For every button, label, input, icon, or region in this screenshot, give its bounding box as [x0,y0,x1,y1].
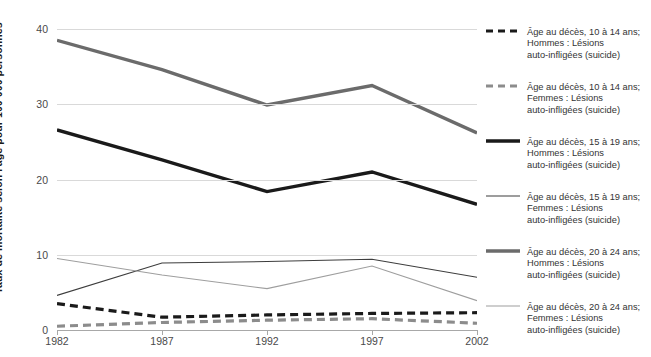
series-line-hommes-10-14 [57,304,477,318]
series-line-hommes-20-24 [57,40,477,133]
x-tick-mark-1987 [162,330,163,335]
gridline-40 [57,29,477,30]
y-tick-label-30: 30 [22,99,48,109]
legend-label-femmes-20-24: Âge au décès, 20 à 24 ans; Femmes : Lési… [527,297,640,336]
legend-swatch-hommes-15-19 [486,132,520,154]
gridline-20 [57,180,477,181]
legend-swatch-hommes-10-14 [486,22,520,44]
legend-swatch-hommes-20-24 [486,242,520,264]
legend-label-hommes-10-14: Âge au décès, 10 à 14 ans; Hommes : Lési… [527,22,640,61]
legend-swatch-femmes-15-19 [486,187,520,209]
y-tick-label-20: 20 [22,175,48,185]
x-tick-mark-1992 [267,330,268,335]
y-tick-label-10: 10 [22,250,48,260]
x-tick-mark-1997 [372,330,373,335]
gridline-30 [57,104,477,105]
legend-swatch-femmes-10-14 [486,77,520,99]
legend-item-hommes-10-14[interactable]: Âge au décès, 10 à 14 ans; Hommes : Lési… [486,22,651,61]
legend-swatch-femmes-20-24 [486,297,520,319]
x-tick-label-1982: 1982 [27,335,87,347]
x-tick-label-1997: 1997 [342,335,402,347]
legend-item-hommes-20-24[interactable]: Âge au décès, 20 à 24 ans; Hommes : Lési… [486,242,651,281]
series-line-femmes-15-19 [57,259,477,295]
chart-figure: Taux de mortalité selon l'âge pour 100 0… [0,0,651,357]
gridline-10 [57,255,477,256]
legend-item-femmes-15-19[interactable]: Âge au décès, 15 à 19 ans; Femmes : Lési… [486,187,651,226]
chart-legend: Âge au décès, 10 à 14 ans; Hommes : Lési… [486,14,651,344]
series-line-hommes-15-19 [57,130,477,204]
series-line-femmes-20-24 [57,259,477,301]
y-axis-title: Taux de mortalité selon l'âge pour 100 0… [0,0,8,316]
series-lines [57,14,477,330]
legend-label-femmes-15-19: Âge au décès, 15 à 19 ans; Femmes : Lési… [527,187,640,226]
x-tick-label-1987: 1987 [132,335,192,347]
y-tick-label-0: 0 [22,325,48,335]
y-tick-label-40: 40 [22,24,48,34]
legend-label-hommes-20-24: Âge au décès, 20 à 24 ans; Hommes : Lési… [527,242,640,281]
x-tick-mark-2002 [477,330,478,335]
legend-label-femmes-10-14: Âge au décès, 10 à 14 ans; Femmes : Lési… [527,77,640,116]
legend-item-hommes-15-19[interactable]: Âge au décès, 15 à 19 ans; Hommes : Lési… [486,132,651,171]
series-line-femmes-10-14 [57,319,477,327]
legend-item-femmes-20-24[interactable]: Âge au décès, 20 à 24 ans; Femmes : Lési… [486,297,651,336]
legend-label-hommes-15-19: Âge au décès, 15 à 19 ans; Hommes : Lési… [527,132,640,171]
x-tick-label-1992: 1992 [237,335,297,347]
plot-area [57,14,477,330]
legend-item-femmes-10-14[interactable]: Âge au décès, 10 à 14 ans; Femmes : Lési… [486,77,651,116]
x-tick-mark-1982 [57,330,58,335]
